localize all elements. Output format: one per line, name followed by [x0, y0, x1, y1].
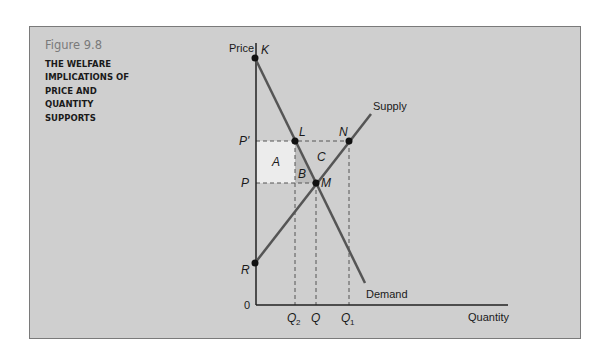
point-l	[292, 138, 299, 145]
price-label-p: P	[241, 176, 249, 190]
quantity-label-q1-sub: 1	[350, 318, 355, 327]
quantity-label-q2: Q	[287, 311, 296, 325]
quantity-label-q: Q	[311, 311, 320, 325]
area-label-c: C	[317, 150, 326, 164]
point-k	[252, 55, 259, 62]
y-axis-label: Price	[229, 42, 254, 54]
area-label-a: A	[271, 155, 280, 169]
point-m	[313, 180, 320, 187]
supply-label: Supply	[373, 100, 407, 112]
point-label-r: R	[241, 263, 250, 277]
supply-demand-diagram: Price Quantity 0 P' P Q 2 Q Q 1 Supply D…	[0, 0, 609, 359]
point-label-n: N	[339, 125, 348, 139]
point-label-m: M	[321, 176, 331, 190]
origin-label: 0	[244, 299, 250, 311]
point-label-k: K	[261, 43, 270, 57]
point-r	[252, 260, 259, 267]
supply-curve	[255, 114, 371, 263]
point-label-l: L	[299, 125, 306, 139]
demand-label: Demand	[366, 288, 408, 300]
x-axis-label: Quantity	[468, 311, 509, 323]
area-label-b: B	[298, 167, 306, 181]
quantity-label-q1: Q	[341, 311, 350, 325]
price-label-p-prime: P'	[239, 134, 250, 148]
quantity-label-q2-sub: 2	[296, 318, 301, 327]
